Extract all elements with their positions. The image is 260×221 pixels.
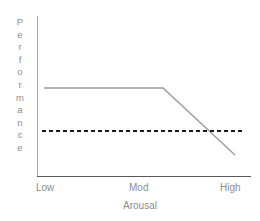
performance-arousal-chart: P e r f o r m a n c e Low Mod High Arous… <box>0 0 260 221</box>
x-axis-title: Arousal <box>0 199 260 212</box>
x-axis-title-text: Arousal <box>123 199 157 212</box>
x-tick-label-mod: Mod <box>129 181 148 194</box>
x-tick-label-high: High <box>220 181 241 194</box>
x-tick-label-low: Low <box>36 181 54 194</box>
series-performance-curve <box>44 88 235 155</box>
